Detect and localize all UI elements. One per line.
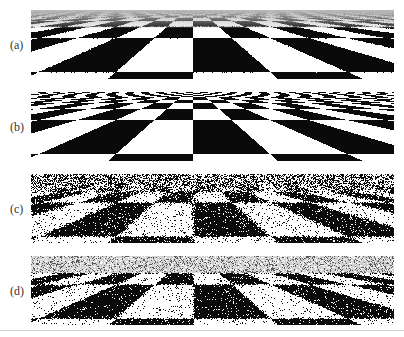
checkerboard-panel-d xyxy=(31,256,394,325)
checkerboard-image-a xyxy=(31,10,394,79)
panel-label-c: (c) xyxy=(10,202,23,216)
checkerboard-image-b xyxy=(31,92,394,161)
checkerboard-image-c xyxy=(31,174,394,243)
checkerboard-image-d xyxy=(31,256,394,325)
checkerboard-panel-b xyxy=(31,92,394,161)
panel-label-b: (b) xyxy=(10,120,24,134)
checkerboard-panel-c xyxy=(31,174,394,243)
panel-label-a: (a) xyxy=(10,38,23,52)
divider-line xyxy=(0,330,404,331)
panel-label-d: (d) xyxy=(10,284,24,298)
checkerboard-panel-a xyxy=(31,10,394,79)
